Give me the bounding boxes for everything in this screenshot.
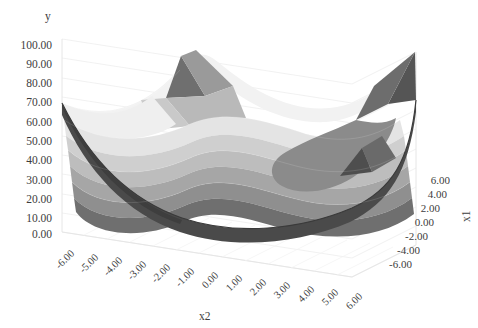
y-tick-label: 20.00 [26, 193, 52, 205]
x2-tick-label: -2.00 [149, 262, 172, 285]
x2-tick-label: 4.00 [296, 284, 317, 305]
y-tick-label: 10.00 [26, 212, 52, 224]
x1-tick-label: 0.00 [415, 216, 435, 228]
y-tick-label: 100.00 [20, 39, 52, 51]
x2-axis-title: x2 [199, 310, 211, 322]
y-axis-title: y [45, 10, 51, 23]
y-tick-label: 0.00 [32, 228, 52, 240]
x2-tick-label: 0.00 [200, 270, 221, 291]
y-tick-label: 90.00 [26, 58, 52, 70]
x2-tick-label: -5.00 [77, 252, 100, 275]
x1-tick-label: -2.00 [405, 230, 428, 242]
x1-tick-label: -4.00 [397, 244, 420, 256]
x1-tick-label: 2.00 [421, 202, 441, 214]
x2-tick-label: -6.00 [53, 248, 76, 271]
x1-tick-label: 4.00 [428, 188, 448, 200]
x2-tick-label: 2.00 [248, 277, 269, 298]
x2-tick-label: -3.00 [125, 259, 148, 282]
y-tick-label: 40.00 [26, 154, 52, 166]
y-tick-label: 50.00 [26, 135, 52, 147]
y-tick-label: 30.00 [26, 174, 52, 186]
x2-tick-label: -1.00 [173, 266, 196, 289]
x1-tick-label: 6.00 [431, 174, 451, 186]
x2-tick-label: 6.00 [344, 291, 365, 312]
y-tick-label: 60.00 [26, 116, 52, 128]
surface-chart-3d: 100.00 90.00 80.00 70.00 60.00 50.00 40.… [0, 0, 478, 328]
x2-axis-ticklabels: -6.00 -5.00 -4.00 -3.00 -2.00 -1.00 0.00… [53, 248, 364, 312]
chart-canvas: 100.00 90.00 80.00 70.00 60.00 50.00 40.… [0, 0, 478, 328]
y-tick-label: 70.00 [26, 96, 52, 108]
x1-axis-title: x1 [460, 210, 472, 222]
x2-tick-label: 1.00 [224, 273, 245, 294]
y-tick-label: 80.00 [26, 77, 52, 89]
x2-tick-label: -4.00 [101, 255, 124, 278]
x2-tick-label: 5.00 [320, 287, 341, 308]
x2-tick-label: 3.00 [272, 280, 293, 301]
y-axis-ticklabels: 100.00 90.00 80.00 70.00 60.00 50.00 40.… [20, 39, 52, 240]
x1-tick-label: -6.00 [389, 258, 412, 270]
